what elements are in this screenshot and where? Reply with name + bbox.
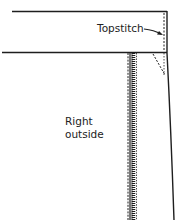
garment-right-edge <box>167 53 174 220</box>
arrowhead-icon <box>157 31 163 35</box>
right-outside-label-line1: Right <box>65 115 93 128</box>
topstitch-label: Topstitch <box>97 22 144 35</box>
sewing-diagram <box>0 0 180 220</box>
diagonal-stitch <box>153 54 165 75</box>
right-outside-label-line2: outside <box>65 128 104 141</box>
